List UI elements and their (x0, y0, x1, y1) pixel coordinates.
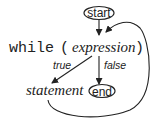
while-keyword: while (9, 40, 54, 57)
start-node: start (84, 6, 114, 20)
end-label: end (92, 85, 112, 99)
close-paren: ) (135, 40, 144, 57)
false-label: false (104, 59, 126, 71)
expression-label: expression (72, 39, 136, 55)
while-loop-diagram: start while ( expression ) true false st… (0, 0, 156, 124)
statement-label: statement (26, 82, 84, 98)
start-label: start (87, 6, 111, 20)
while-statement-line: while ( expression ) (9, 39, 144, 57)
true-label: true (53, 59, 71, 71)
end-node: end (89, 85, 115, 99)
open-paren: ( (60, 40, 69, 57)
